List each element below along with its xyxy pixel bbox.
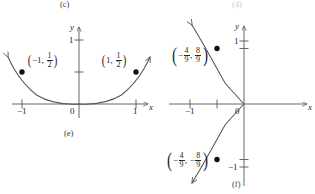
origin-label-e: 0 bbox=[70, 106, 75, 116]
point-label-upper-f: (−49, 89) bbox=[171, 45, 209, 66]
paren-close: ) bbox=[123, 53, 127, 68]
y-tick-label-1-e: 1 bbox=[69, 35, 74, 45]
point-label-upper-y-fraction-f: 89 bbox=[195, 47, 202, 64]
paren-close: ) bbox=[54, 53, 58, 68]
point-marker-right-e bbox=[133, 69, 138, 74]
figure-e-parabola-up: x y −1 1 1 0 (−1, 12) (1, 12) bbox=[0, 0, 158, 194]
y-tick-label-neg1-f: −1 bbox=[228, 162, 238, 172]
x-axis-label-e: x bbox=[149, 102, 153, 112]
paren-open: ( bbox=[28, 53, 32, 68]
paren-close: ) bbox=[203, 45, 208, 66]
x-axis-label-f: x bbox=[308, 102, 312, 112]
point-label-lower-f: (−49, −89) bbox=[166, 150, 209, 171]
point-label-left-x-e: −1 bbox=[32, 56, 42, 65]
y-axis-label-e: y bbox=[70, 22, 74, 32]
fraction-denominator: 9 bbox=[195, 160, 201, 169]
point-label-left-e: (−1, 12) bbox=[27, 52, 58, 69]
fraction-denominator: 2 bbox=[47, 60, 53, 69]
fraction-denominator: 2 bbox=[116, 60, 122, 69]
x-tick-label-neg1-f: −1 bbox=[185, 106, 195, 116]
figure-f-parabola-left: x y −1 1 −1 0 (−49, 89) (−49, −89) bbox=[157, 0, 315, 194]
x-tick-label-neg1-e: −1 bbox=[17, 106, 27, 116]
x-tick-label-1-e: 1 bbox=[133, 106, 138, 116]
point-marker-upper-f bbox=[214, 46, 219, 51]
paren-close: ) bbox=[203, 150, 208, 171]
figure-e-canvas bbox=[0, 0, 158, 194]
origin-label-f: 0 bbox=[235, 106, 240, 116]
paren-open: ( bbox=[172, 45, 177, 66]
point-label-lower-y-fraction-f: 89 bbox=[195, 152, 202, 169]
fraction-numerator: 4 bbox=[184, 47, 190, 55]
fraction-denominator: 9 bbox=[195, 55, 201, 64]
point-label-right-e: (1, 12) bbox=[101, 52, 127, 69]
point-marker-left-e bbox=[19, 69, 24, 74]
fraction-numerator: 1 bbox=[116, 52, 122, 60]
point-label-lower-x-fraction-f: 49 bbox=[178, 152, 185, 169]
fraction-denominator: 9 bbox=[179, 160, 185, 169]
paren-open: ( bbox=[102, 53, 106, 68]
fraction-numerator: 8 bbox=[195, 47, 201, 55]
point-label-upper-x-fraction-f: 49 bbox=[183, 47, 190, 64]
point-label-right-y-fraction-e: 12 bbox=[115, 52, 122, 69]
y-tick-label-1-f: 1 bbox=[234, 36, 239, 46]
fraction-denominator: 9 bbox=[184, 55, 190, 64]
paren-open: ( bbox=[167, 150, 172, 171]
fraction-numerator: 8 bbox=[195, 152, 201, 160]
fraction-numerator: 1 bbox=[47, 52, 53, 60]
point-marker-lower-f bbox=[214, 157, 219, 162]
fraction-numerator: 4 bbox=[179, 152, 185, 160]
point-label-left-y-fraction-e: 12 bbox=[46, 52, 53, 69]
y-axis-label-f: y bbox=[235, 21, 239, 31]
